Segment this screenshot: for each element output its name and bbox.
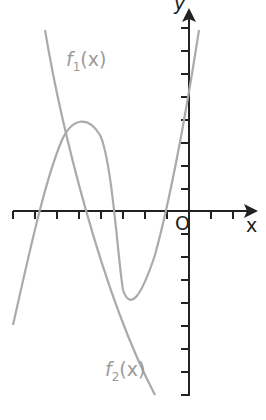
origin-label: O <box>175 212 190 234</box>
function-graph: f1(x) f2(x) y x O <box>0 0 266 420</box>
graph-canvas <box>0 0 266 420</box>
x-ticks <box>13 211 233 219</box>
y-axis-label: y <box>174 0 185 14</box>
f1-label: f1(x) <box>66 48 106 74</box>
f2-label: f2(x) <box>105 358 145 384</box>
f1-curve <box>13 30 199 325</box>
x-axis-label: x <box>246 214 257 236</box>
